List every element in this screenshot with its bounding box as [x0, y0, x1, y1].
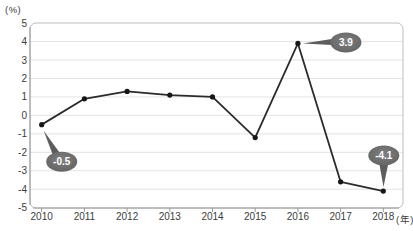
- data-point-2018: [381, 188, 386, 193]
- x-tick-label-2012: 2012: [116, 211, 139, 222]
- y-tick-label--5: -5: [18, 202, 27, 213]
- y-tick-label--4: -4: [18, 184, 27, 195]
- y-tick-label-5: 5: [21, 18, 27, 29]
- y-tick-label--1: -1: [18, 128, 27, 139]
- callout-label-2010: -0.5: [53, 156, 71, 167]
- data-point-2012: [125, 89, 130, 94]
- data-point-2016: [295, 41, 300, 46]
- callout-label-2018: -4.1: [375, 150, 393, 161]
- x-tick-label-2011: 2011: [74, 211, 96, 222]
- data-point-2010: [39, 122, 44, 127]
- callout-tail-2018: [379, 164, 388, 188]
- y-axis-unit-label: (%): [5, 4, 21, 15]
- x-tick-label-2018: 2018: [372, 211, 395, 222]
- y-tick-label-4: 4: [21, 36, 27, 47]
- data-series-line: [42, 43, 384, 191]
- y-tick-label-1: 1: [21, 91, 27, 102]
- x-tick-label-2015: 2015: [244, 211, 267, 222]
- y-tick-label-3: 3: [21, 55, 27, 66]
- x-tick-label-2014: 2014: [201, 211, 224, 222]
- data-point-2014: [210, 94, 215, 99]
- data-point-2011: [82, 96, 87, 101]
- y-tick-label--3: -3: [18, 165, 27, 176]
- callout-label-2016: 3.9: [339, 37, 353, 48]
- line-chart-canvas: 543210-1-2-3-4-5201020112012201320142015…: [0, 0, 413, 231]
- y-tick-label-0: 0: [21, 110, 27, 121]
- x-tick-label-2013: 2013: [159, 211, 182, 222]
- x-axis-unit-label: (年): [396, 212, 413, 226]
- chart-figure: (%) 543210-1-2-3-4-520102011201220132014…: [0, 0, 413, 231]
- data-point-2017: [338, 179, 343, 184]
- y-tick-label-2: 2: [21, 73, 27, 84]
- x-tick-label-2017: 2017: [329, 211, 352, 222]
- data-point-2013: [167, 93, 172, 98]
- x-tick-label-2010: 2010: [31, 211, 54, 222]
- y-tick-label--2: -2: [18, 147, 27, 158]
- x-tick-label-2016: 2016: [287, 211, 310, 222]
- data-point-2015: [253, 135, 258, 140]
